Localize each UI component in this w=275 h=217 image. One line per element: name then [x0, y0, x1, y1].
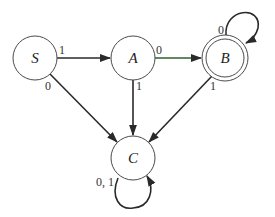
edge-c-self-loop: [115, 176, 151, 208]
label-b-self: 0: [218, 23, 224, 37]
label-c-self: 0, 1: [96, 175, 114, 189]
edge-b-to-c: [149, 76, 212, 142]
label-a-to-b: 0: [156, 43, 162, 57]
state-b-label: B: [220, 50, 229, 66]
edge-s-to-c: [50, 74, 117, 142]
state-c: C: [111, 136, 155, 180]
state-diagram: S A B C 1 0 0 1 0 1 0, 1: [0, 0, 275, 217]
state-s-label: S: [31, 50, 39, 66]
label-b-to-c: 1: [210, 79, 216, 93]
label-s-to-c: 0: [45, 79, 51, 93]
state-s: S: [13, 36, 57, 80]
label-a-to-c: 1: [136, 79, 142, 93]
state-c-label: C: [128, 150, 139, 166]
state-b-accepting: B: [202, 35, 248, 81]
label-s-to-a: 1: [59, 43, 65, 57]
state-a: A: [111, 36, 155, 80]
state-a-label: A: [127, 50, 138, 66]
